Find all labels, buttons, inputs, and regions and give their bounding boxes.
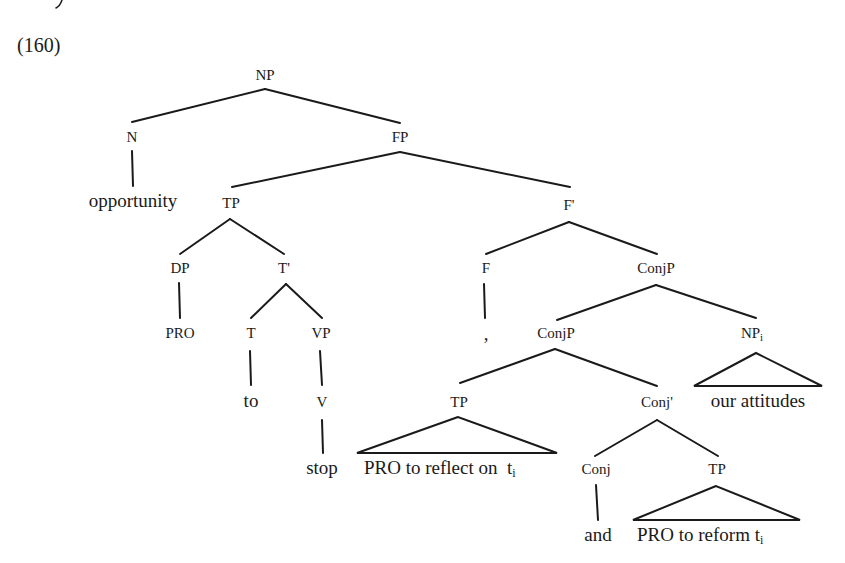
node-v: V: [317, 394, 328, 410]
node-fp: FP: [392, 129, 409, 145]
node-dp: DP: [170, 260, 189, 276]
word-tp-reform: PRO to reform ti: [637, 524, 764, 547]
node-t: T: [246, 325, 255, 341]
word-and: and: [584, 524, 612, 545]
node-n: N: [127, 129, 138, 145]
word-our-attitudes: our attitudes: [711, 390, 805, 411]
syntax-tree-diagram: (160): [0, 0, 845, 563]
node-tp-1: TP: [222, 195, 240, 211]
node-np-root: NP: [255, 67, 274, 83]
word-comma: ,: [484, 323, 489, 344]
node-tp-3: TP: [708, 461, 726, 477]
word-tp-reflect: PRO to reflect on ti: [364, 457, 516, 480]
tree-edges: [132, 89, 822, 520]
node-conj: Conj: [581, 461, 610, 477]
node-f: F: [482, 260, 490, 276]
tree-labels: NP N FP opportunity TP F' DP T' F ConjP …: [89, 67, 806, 547]
word-to: to: [244, 390, 259, 411]
node-conjp-2: ConjP: [537, 325, 575, 341]
cropped-glyph-descender: [56, 0, 62, 8]
node-np-i: NPi: [741, 325, 763, 343]
word-opportunity: opportunity: [89, 190, 178, 211]
word-pro: PRO: [165, 325, 194, 341]
node-conjp-1: ConjP: [637, 260, 675, 276]
node-tp-2: TP: [450, 394, 468, 410]
example-number: (160): [17, 34, 60, 57]
node-vp: VP: [311, 325, 330, 341]
node-t-bar: T': [278, 260, 290, 276]
node-conj-bar: Conj': [641, 394, 673, 410]
word-stop: stop: [306, 457, 338, 478]
node-f-bar: F': [563, 197, 574, 213]
